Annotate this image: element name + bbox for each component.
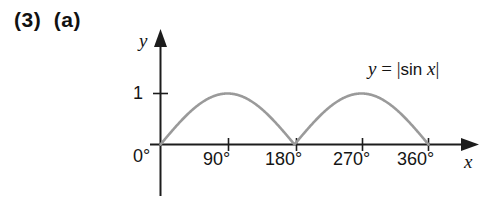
x-tick-label-0: 0° — [133, 147, 150, 165]
x-tick-label-360: 360° — [397, 150, 434, 168]
x-axis-label: x — [464, 152, 472, 171]
x-tick-label-90: 90° — [203, 150, 230, 168]
figure-page: (3) (a) y x 1 0° 90° — [0, 0, 493, 200]
x-tick-label-270: 270° — [333, 150, 370, 168]
equation-equals: = — [381, 58, 392, 79]
equation-annotation: y = |sin x| — [368, 58, 439, 80]
x-tick-label-180: 180° — [265, 150, 302, 168]
y-axis-arrowhead — [154, 29, 167, 47]
y-axis-label: y — [139, 31, 147, 50]
plot-canvas — [0, 0, 493, 200]
y-tick-label-1: 1 — [133, 84, 143, 102]
x-axis-arrowhead — [461, 138, 479, 151]
graph-figure: y x 1 0° 90° 180° 270° 360° y = |sin x| — [0, 0, 493, 200]
equation-function-name: sin — [400, 60, 422, 79]
curve-absolute-sine — [161, 94, 429, 145]
equation-close-bar: | — [435, 58, 439, 79]
